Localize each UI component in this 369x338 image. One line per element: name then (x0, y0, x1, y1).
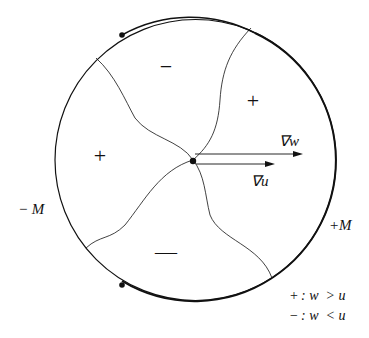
grad-w-label: ∇w (279, 133, 299, 149)
legend-minus-sign: − (290, 308, 298, 323)
grad-w-arrowhead (293, 151, 303, 157)
plus-m-label: +M (329, 217, 353, 233)
boundary-point-top (119, 32, 125, 38)
region-sign-right: + (247, 88, 259, 113)
nodal-curve-upper-left (96, 58, 193, 160)
critical-point (190, 158, 196, 164)
nodal-domain-diagram: − + + — ∇w ∇u − M +M + : w > u − : w < u (0, 0, 369, 338)
minus-m-label: − M (18, 201, 46, 217)
legend-minus-text: : w < u (301, 308, 345, 323)
boundary-point-bottom (119, 282, 125, 288)
grad-u-label: ∇u (251, 173, 269, 189)
region-sign-bottom: — (154, 239, 178, 264)
lower-arc (122, 278, 272, 301)
region-sign-top: − (160, 54, 172, 79)
grad-u-arrowhead (265, 161, 275, 167)
nodal-curve-lower-left (86, 160, 193, 248)
legend-plus-text: : w > u (301, 288, 345, 303)
nodal-curve-upper-right (193, 28, 251, 160)
legend-plus-sign: + (290, 288, 298, 303)
region-sign-left: + (94, 143, 106, 168)
